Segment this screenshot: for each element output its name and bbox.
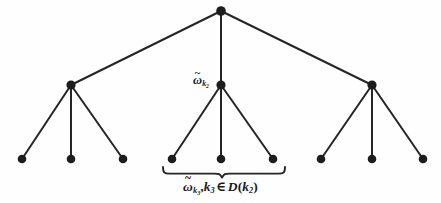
root-node (216, 6, 226, 16)
subscript-k: k2 (202, 79, 209, 88)
leaf-node-right-3 (419, 155, 428, 164)
set-name-D: D (228, 179, 238, 194)
internal-node-right (367, 80, 376, 89)
k-variable: k (204, 179, 211, 194)
leaf-node-middle-2 (217, 155, 226, 164)
internal-node-left (66, 80, 75, 89)
leaf-node-middle-1 (168, 155, 177, 164)
leaf-node-right-2 (368, 155, 377, 164)
leaf-node-middle-3 (269, 155, 278, 164)
omega-tilde-glyph-k2: ~ ω (193, 74, 202, 87)
omega-tilde-glyph-k3: ~ ω (183, 180, 193, 194)
label-omega-k2: ~ ω k2 (193, 74, 209, 89)
tree-graphics (0, 0, 441, 203)
subscript-index-2: 2 (206, 83, 209, 89)
leaf-node-right-1 (317, 155, 326, 164)
leaf-node-left-2 (67, 155, 76, 164)
leaf-node-left-3 (119, 155, 128, 164)
label-brace-caption: ~ ω k3,k3∈D(k2) (0, 180, 441, 196)
internal-node-middle (216, 80, 225, 89)
close-paren: ) (253, 179, 258, 194)
tilde-accent-icon: ~ (185, 173, 191, 184)
element-of-icon: ∈ (215, 179, 228, 194)
tree-diagram-figure: ~ ω k2 ~ ω k3,k3∈D(k2) (0, 0, 441, 203)
leaf-node-left-1 (18, 155, 27, 164)
tilde-accent-icon: ~ (195, 68, 201, 79)
